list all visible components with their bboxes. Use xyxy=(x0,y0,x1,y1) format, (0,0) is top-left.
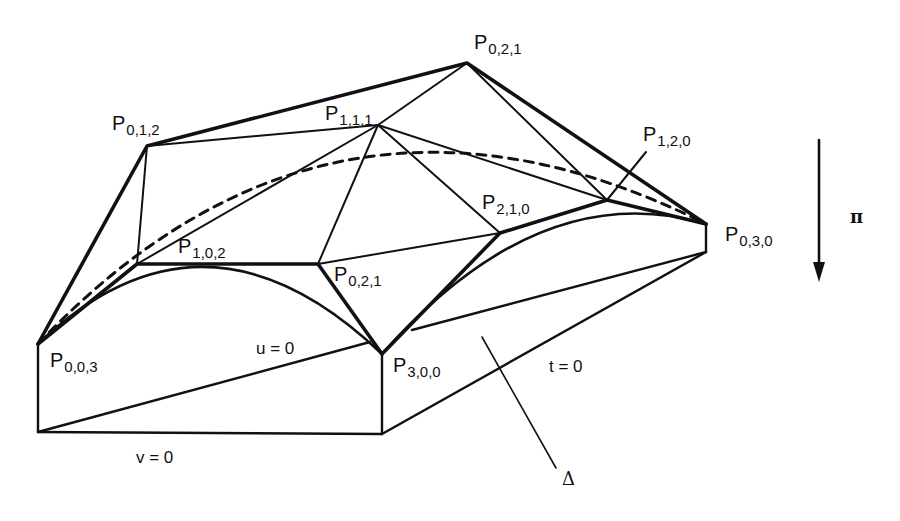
bezier-patch-diagram: P0,1,2 P0,2,1 P1,1,1 P1,2,0 P1,0,2 P2,1,… xyxy=(0,0,900,521)
label-p111: P1,1,1 xyxy=(325,103,373,127)
label-p210: P2,1,0 xyxy=(482,192,530,216)
label-p300: P3,0,0 xyxy=(393,355,441,379)
label-p003: P0,0,3 xyxy=(50,350,98,374)
label-p120: P1,2,0 xyxy=(643,124,691,148)
label-p012: P0,1,2 xyxy=(112,113,160,137)
diagram-lines xyxy=(0,0,900,521)
label-pi-projection: π xyxy=(850,208,863,226)
control-net-inner xyxy=(137,63,646,264)
label-p021-mid: P0,2,1 xyxy=(334,264,382,288)
label-t-equals-0: t = 0 xyxy=(549,358,583,375)
label-delta-domain: Δ xyxy=(562,470,575,488)
label-p021-top: P0,2,1 xyxy=(474,32,522,56)
label-p102: P1,0,2 xyxy=(178,236,226,260)
projection-arrow xyxy=(813,140,825,282)
label-u-equals-0: u = 0 xyxy=(256,340,294,357)
label-p030: P0,3,0 xyxy=(725,224,773,248)
label-v-equals-0: v = 0 xyxy=(136,449,173,466)
